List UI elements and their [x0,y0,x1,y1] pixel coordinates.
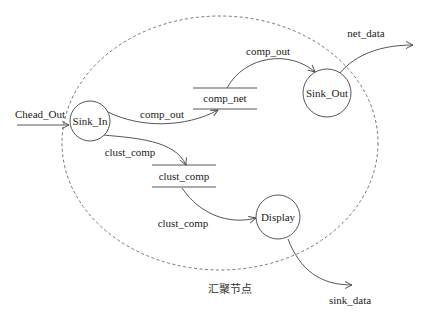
boundary-label: 汇聚节点 [208,283,252,296]
process-sink-in-label: Sink_In [73,115,108,127]
flow-net-data-arrow [340,45,413,73]
flow-label-comp-out-2: comp_out [246,45,290,57]
process-sink-out: Sink_Out [303,69,351,117]
process-sink-out-label: Sink_Out [306,87,348,99]
process-display-label: Display [261,211,296,223]
flow-clust-comp-to-display-arrow [182,188,256,220]
flow-sink-data-arrow [288,239,352,285]
datastore-comp-net-label: comp_net [203,92,246,104]
data-flow-diagram: Sink_In Sink_Out Display comp_net clust_… [0,0,428,321]
process-display: Display [256,195,300,239]
sink-node-boundary [62,16,378,270]
datastore-comp-net: comp_net [193,88,257,109]
datastore-clust-comp-label: clust_comp [159,170,210,182]
flow-label-comp-out-1: comp_out [140,108,184,120]
flow-label-chead-out: Chead_Out [15,108,65,120]
flow-label-clust-comp-1: clust_comp [105,146,156,158]
flow-label-sink-data: sink_data [329,294,371,306]
flow-comp-out-to-sink-out-arrow [227,59,315,88]
process-sink-in: Sink_In [70,101,110,141]
datastore-clust-comp: clust_comp [152,165,216,187]
flow-label-clust-comp-2: clust_comp [158,217,209,229]
flow-label-net-data: net_data [347,27,384,39]
